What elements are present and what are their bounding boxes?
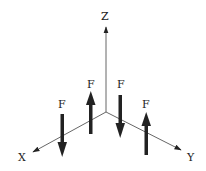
force-2-label: F xyxy=(87,78,95,91)
y-axis-label: Y xyxy=(186,151,195,164)
force-4-shaft xyxy=(145,124,149,155)
axes xyxy=(33,27,181,152)
x-axis-label: X xyxy=(18,151,26,164)
y-axis xyxy=(106,112,181,150)
force-diagram: Z X Y F F F F xyxy=(0,0,206,171)
force-3-shaft xyxy=(119,95,123,125)
force-4-label: F xyxy=(142,98,150,111)
force-1-shaft xyxy=(61,114,65,144)
force-1-label: F xyxy=(58,98,66,111)
force-1: F xyxy=(58,98,68,157)
force-4: F xyxy=(142,98,152,155)
z-axis-label: Z xyxy=(101,10,109,23)
force-2-arrowhead-up-icon xyxy=(86,91,96,105)
x-axis xyxy=(33,112,106,152)
force-2: F xyxy=(86,78,96,134)
force-1-arrowhead-down-icon xyxy=(58,142,68,157)
force-4-arrowhead-up-icon xyxy=(142,112,152,126)
force-3-label: F xyxy=(117,78,125,91)
force-3: F xyxy=(116,78,126,138)
force-3-arrowhead-down-icon xyxy=(116,123,126,138)
force-2-shaft xyxy=(89,103,93,134)
